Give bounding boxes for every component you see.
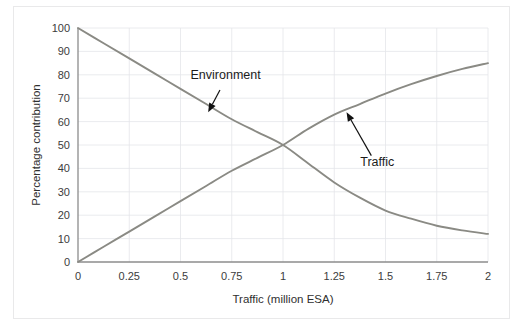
chart-figure: 0102030405060708090100 00.250.50.7511.25… bbox=[0, 0, 524, 331]
annotation-arrow-head bbox=[347, 112, 355, 122]
annotations: EnvironmentTraffic bbox=[191, 68, 395, 169]
y-tick-label: 70 bbox=[58, 92, 70, 104]
y-tick-label: 30 bbox=[58, 186, 70, 198]
y-tick-label: 10 bbox=[58, 233, 70, 245]
annotation-arrow-line bbox=[212, 90, 220, 104]
line-chart-canvas: 0102030405060708090100 00.250.50.7511.25… bbox=[0, 0, 524, 331]
y-tick-label: 0 bbox=[64, 256, 70, 268]
x-tick-label: 1 bbox=[280, 270, 286, 282]
y-tick-label: 50 bbox=[58, 139, 70, 151]
x-axis-title: Traffic (million ESA) bbox=[233, 293, 334, 305]
y-tick-label: 100 bbox=[52, 22, 70, 34]
y-tick-label: 90 bbox=[58, 45, 70, 57]
annotation-arrow-line bbox=[351, 120, 371, 156]
x-tick-label: 0 bbox=[75, 270, 81, 282]
x-tick-label: 1.75 bbox=[426, 270, 447, 282]
x-tick-label: 0.75 bbox=[221, 270, 242, 282]
y-tick-labels: 0102030405060708090100 bbox=[52, 22, 70, 268]
annotation-label-environment: Environment bbox=[191, 68, 262, 82]
x-tick-label: 1.5 bbox=[378, 270, 393, 282]
x-tick-labels: 00.250.50.7511.251.51.752 bbox=[75, 270, 491, 282]
x-tick-label: 0.25 bbox=[119, 270, 140, 282]
y-tick-label: 40 bbox=[58, 162, 70, 174]
annotation-arrow-head bbox=[208, 103, 215, 113]
x-tick-label: 0.5 bbox=[173, 270, 188, 282]
x-tick-label: 2 bbox=[485, 270, 491, 282]
x-tick-label: 1.25 bbox=[324, 270, 345, 282]
y-tick-label: 80 bbox=[58, 69, 70, 81]
annotation-label-traffic: Traffic bbox=[360, 155, 394, 169]
y-tick-label: 60 bbox=[58, 116, 70, 128]
y-tick-label: 20 bbox=[58, 209, 70, 221]
y-axis-title: Percentage contribution bbox=[30, 84, 42, 205]
